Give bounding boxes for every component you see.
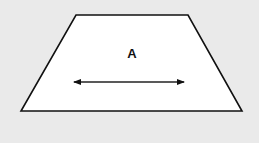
trapezoid-figure (0, 0, 259, 143)
trapezoid-shape (21, 15, 242, 111)
diagram-canvas: A (0, 0, 259, 143)
region-label: A (127, 47, 136, 60)
